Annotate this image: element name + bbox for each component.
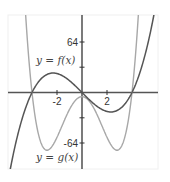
y-tick-label-64: 64: [67, 37, 79, 48]
y-tick-label-neg64: -64: [64, 138, 79, 149]
f-curve-label: y = f(x): [35, 54, 75, 66]
x-tick-label-neg2: -2: [53, 96, 62, 107]
x-tick-label-2: 2: [104, 96, 110, 107]
g-curve-label: y = g(x): [35, 151, 78, 163]
chart: -2 2 64 -64 y = f(x) y = g(x): [0, 0, 170, 182]
